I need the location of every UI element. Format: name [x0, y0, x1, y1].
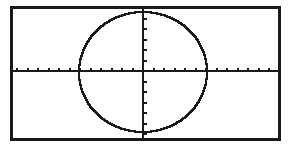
calculator-screen [0, 0, 291, 147]
graph-plot-area [0, 0, 291, 147]
screen-border [12, 8, 280, 140]
